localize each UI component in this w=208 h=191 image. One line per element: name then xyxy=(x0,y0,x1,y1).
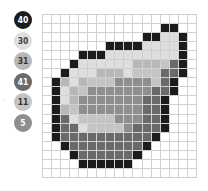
grid-cell[interactable] xyxy=(170,51,179,60)
grid-cell[interactable] xyxy=(106,160,115,169)
grid-cell[interactable] xyxy=(106,124,115,133)
grid-cell[interactable] xyxy=(188,124,197,133)
grid-cell[interactable] xyxy=(106,69,115,78)
grid-cell[interactable] xyxy=(88,105,97,114)
grid-cell[interactable] xyxy=(179,42,188,51)
grid-cell[interactable] xyxy=(97,24,106,33)
grid-cell[interactable] xyxy=(106,42,115,51)
grid-cell[interactable] xyxy=(152,96,161,105)
grid-cell[interactable] xyxy=(43,15,52,24)
grid-cell[interactable] xyxy=(133,60,142,69)
grid-cell[interactable] xyxy=(106,78,115,87)
grid-cell[interactable] xyxy=(70,160,79,169)
grid-cell[interactable] xyxy=(179,69,188,78)
grid-cell[interactable] xyxy=(133,15,142,24)
grid-cell[interactable] xyxy=(88,96,97,105)
grid-cell[interactable] xyxy=(124,69,133,78)
grid-cell[interactable] xyxy=(106,60,115,69)
grid-cell[interactable] xyxy=(88,33,97,42)
grid-cell[interactable] xyxy=(115,151,124,160)
grid-cell[interactable] xyxy=(179,133,188,142)
grid-cell[interactable] xyxy=(115,160,124,169)
grid-cell[interactable] xyxy=(161,60,170,69)
grid-cell[interactable] xyxy=(179,60,188,69)
grid-cell[interactable] xyxy=(188,115,197,124)
grid-cell[interactable] xyxy=(52,60,61,69)
grid-cell[interactable] xyxy=(43,169,52,178)
grid-cell[interactable] xyxy=(115,115,124,124)
grid-cell[interactable] xyxy=(79,124,88,133)
grid-cell[interactable] xyxy=(133,105,142,114)
grid-cell[interactable] xyxy=(115,105,124,114)
grid-cell[interactable] xyxy=(106,24,115,33)
grid-cell[interactable] xyxy=(179,105,188,114)
grid-cell[interactable] xyxy=(152,115,161,124)
grid-cell[interactable] xyxy=(170,24,179,33)
grid-cell[interactable] xyxy=(115,69,124,78)
grid-cell[interactable] xyxy=(179,87,188,96)
grid-cell[interactable] xyxy=(188,24,197,33)
grid-cell[interactable] xyxy=(79,24,88,33)
grid-cell[interactable] xyxy=(88,42,97,51)
grid-cell[interactable] xyxy=(52,24,61,33)
grid-cell[interactable] xyxy=(115,169,124,178)
grid-cell[interactable] xyxy=(61,60,70,69)
grid-cell[interactable] xyxy=(61,69,70,78)
grid-cell[interactable] xyxy=(52,78,61,87)
grid-cell[interactable] xyxy=(43,69,52,78)
grid-cell[interactable] xyxy=(188,42,197,51)
grid-cell[interactable] xyxy=(124,142,133,151)
grid-cell[interactable] xyxy=(79,105,88,114)
grid-cell[interactable] xyxy=(97,133,106,142)
grid-cell[interactable] xyxy=(97,124,106,133)
grid-cell[interactable] xyxy=(124,60,133,69)
grid-cell[interactable] xyxy=(52,133,61,142)
grid-cell[interactable] xyxy=(88,151,97,160)
grid-cell[interactable] xyxy=(61,169,70,178)
grid-cell[interactable] xyxy=(88,133,97,142)
grid-cell[interactable] xyxy=(61,115,70,124)
grid-cell[interactable] xyxy=(124,15,133,24)
grid-cell[interactable] xyxy=(188,142,197,151)
grid-cell[interactable] xyxy=(152,15,161,24)
grid-cell[interactable] xyxy=(52,51,61,60)
grid-cell[interactable] xyxy=(106,51,115,60)
grid-cell[interactable] xyxy=(124,160,133,169)
grid-cell[interactable] xyxy=(115,133,124,142)
grid-cell[interactable] xyxy=(97,96,106,105)
grid-cell[interactable] xyxy=(179,124,188,133)
palette-color-31[interactable]: 31 xyxy=(14,52,32,70)
grid-cell[interactable] xyxy=(88,124,97,133)
grid-cell[interactable] xyxy=(188,33,197,42)
grid-cell[interactable] xyxy=(133,115,142,124)
grid-cell[interactable] xyxy=(115,60,124,69)
grid-cell[interactable] xyxy=(133,169,142,178)
grid-cell[interactable] xyxy=(124,87,133,96)
grid-cell[interactable] xyxy=(52,142,61,151)
grid-cell[interactable] xyxy=(161,15,170,24)
grid-cell[interactable] xyxy=(79,78,88,87)
grid-cell[interactable] xyxy=(106,169,115,178)
grid-cell[interactable] xyxy=(133,42,142,51)
grid-cell[interactable] xyxy=(188,133,197,142)
grid-cell[interactable] xyxy=(161,78,170,87)
grid-cell[interactable] xyxy=(115,96,124,105)
grid-cell[interactable] xyxy=(161,33,170,42)
grid-cell[interactable] xyxy=(97,51,106,60)
grid-cell[interactable] xyxy=(106,142,115,151)
grid-cell[interactable] xyxy=(124,96,133,105)
grid-cell[interactable] xyxy=(124,115,133,124)
grid-cell[interactable] xyxy=(143,160,152,169)
grid-cell[interactable] xyxy=(106,33,115,42)
grid-cell[interactable] xyxy=(79,142,88,151)
grid-cell[interactable] xyxy=(115,24,124,33)
grid-cell[interactable] xyxy=(43,105,52,114)
grid-cell[interactable] xyxy=(61,160,70,169)
grid-cell[interactable] xyxy=(143,42,152,51)
grid-cell[interactable] xyxy=(52,42,61,51)
grid-cell[interactable] xyxy=(161,105,170,114)
grid-cell[interactable] xyxy=(88,15,97,24)
grid-cell[interactable] xyxy=(52,124,61,133)
grid-cell[interactable] xyxy=(88,87,97,96)
grid-cell[interactable] xyxy=(152,105,161,114)
